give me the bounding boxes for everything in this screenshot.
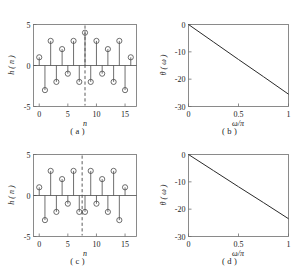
plot-frame-d [189, 155, 289, 237]
x-axis-ticks-d [189, 234, 289, 237]
panel-b: 0-10-20-30 00.51 ω/π θ ( ω ) ( b ) [152, 8, 307, 140]
x-tick-label: 0.5 [234, 110, 244, 119]
y-axis-label-b: θ ( ω ) [159, 54, 168, 75]
caption-d: ( d ) [152, 256, 307, 266]
x-tick-label: 5 [66, 110, 70, 119]
x-tick-labels-d: 00.51 [187, 240, 291, 249]
y-tick-label: 0 [182, 151, 186, 160]
caption-b: ( b ) [152, 126, 307, 136]
x-tick-label: 1 [287, 240, 291, 249]
plot-frame-b [189, 25, 289, 107]
x-tick-label: 0 [187, 240, 191, 249]
phase-curve-d [189, 155, 289, 219]
stem-chart-a: -505 051015 n h ( n ) [0, 8, 155, 140]
y-axis-label-a: h ( n ) [7, 55, 16, 75]
y-tick-label: -5 [24, 103, 31, 112]
y-tick-label: -30 [175, 233, 186, 242]
phase-chart-b: 0-10-20-30 00.51 ω/π θ ( ω ) [152, 8, 307, 140]
y-tick-label: -10 [175, 48, 186, 57]
y-tick-label: 5 [27, 151, 31, 160]
x-tick-label: 0.5 [234, 240, 244, 249]
y-tick-labels-b: 0-10-20-30 [175, 21, 186, 112]
y-tick-label: 5 [27, 21, 31, 30]
plot-area-d: 0-10-20-30 00.51 [175, 151, 291, 249]
caption-a: ( a ) [0, 126, 155, 136]
x-tick-label: 10 [92, 110, 100, 119]
y-axis-ticks-d [189, 155, 192, 237]
y-axis-label-d: θ ( ω ) [159, 184, 168, 205]
panel-c: -505 051015 n h ( n ) ( c ) [0, 138, 155, 272]
y-tick-labels-c: -505 [24, 151, 31, 242]
x-tick-label: 0 [37, 110, 41, 119]
y-tick-label: 0 [27, 62, 31, 71]
figure-panel-grid: -505 051015 n h ( n ) ( a ) 0-10-20-30 0… [0, 0, 307, 278]
x-tick-label: 1 [287, 110, 291, 119]
y-tick-label: 0 [27, 192, 31, 201]
y-tick-label: -30 [175, 103, 186, 112]
y-tick-label: -20 [175, 75, 186, 84]
x-tick-label: 15 [121, 110, 129, 119]
x-tick-label: 5 [66, 240, 70, 249]
caption-c: ( c ) [0, 256, 155, 266]
x-tick-labels-b: 00.51 [187, 110, 291, 119]
x-tick-labels-c: 051015 [37, 240, 129, 249]
panel-d: 0-10-20-30 00.51 ω/π θ ( ω ) ( d ) [152, 138, 307, 272]
y-axis-label-c: h ( n ) [7, 185, 16, 205]
y-tick-labels-a: -505 [24, 21, 31, 112]
plot-area-c: -505 051015 [24, 151, 137, 249]
x-tick-label: 15 [121, 240, 129, 249]
y-tick-label: -10 [175, 178, 186, 187]
phase-curve-b [189, 25, 289, 95]
stem-chart-c: -505 051015 n h ( n ) [0, 138, 155, 272]
x-tick-label: 10 [92, 240, 100, 249]
y-tick-label: -20 [175, 205, 186, 214]
y-tick-labels-d: 0-10-20-30 [175, 151, 186, 242]
panel-a: -505 051015 n h ( n ) ( a ) [0, 8, 155, 140]
x-tick-labels-a: 051015 [37, 110, 129, 119]
x-tick-label: 0 [187, 110, 191, 119]
plot-area-a: -505 051015 [24, 21, 137, 119]
x-tick-label: 0 [37, 240, 41, 249]
y-tick-label: -5 [24, 233, 31, 242]
phase-chart-d: 0-10-20-30 00.51 ω/π θ ( ω ) [152, 138, 307, 272]
y-axis-ticks-b [189, 25, 192, 107]
x-axis-ticks-b [189, 104, 289, 107]
y-tick-label: 0 [182, 21, 186, 30]
plot-area-b: 0-10-20-30 00.51 [175, 21, 291, 119]
x-axis-ticks-a [39, 104, 125, 107]
